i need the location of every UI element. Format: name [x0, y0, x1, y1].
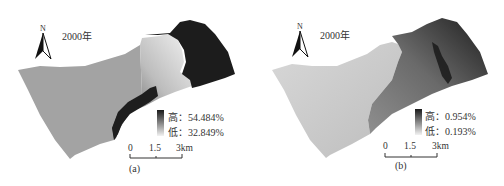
scale-tick-1-5: 1.5 — [404, 141, 416, 151]
year-label: 2000年 — [320, 27, 350, 42]
map-panel-b: N 2000年 高：0.954% 低：0.193% 0 1.5 3km (b) — [252, 0, 504, 186]
legend-high-label: 高：0.954% — [425, 108, 476, 123]
north-label: N — [40, 24, 46, 33]
scale-tick-0: 0 — [383, 141, 388, 151]
raster-map-b — [252, 0, 504, 186]
north-arrow-icon — [35, 33, 55, 63]
map-panel-a: N 2000年 高：54.484% 低：32.849% 0 1.5 3km (a… — [0, 0, 252, 186]
scale-tick-0: 0 — [128, 143, 133, 153]
scale-bar — [128, 153, 188, 161]
legend-high-label: 高：54.484% — [168, 109, 224, 124]
scale-tick-3km: 3km — [176, 143, 193, 153]
scale-bar — [383, 152, 443, 160]
scale-tick-3km: 3km — [432, 141, 449, 151]
legend-low-label: 低：0.193% — [425, 123, 476, 138]
north-arrow-icon — [292, 31, 312, 61]
raster-map-a — [0, 0, 252, 186]
scale-tick-1-5: 1.5 — [149, 143, 161, 153]
year-label: 2000年 — [62, 28, 92, 43]
panel-caption: (b) — [395, 160, 407, 171]
legend-gradient-bar — [415, 109, 422, 135]
north-label: N — [297, 22, 303, 31]
legend-low-label: 低：32.849% — [168, 124, 224, 139]
panel-caption: (a) — [129, 163, 140, 174]
legend-gradient-bar — [157, 110, 164, 136]
